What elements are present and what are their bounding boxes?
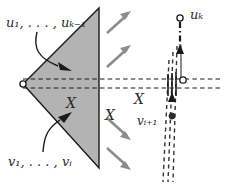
cone-diagram-figure: u₁, . . . , uₖ₋₁ v₁, . . . , vᵢ uₖ vᵢ₊₁ … (0, 0, 225, 184)
vi-plus-1-direction-arrow (168, 92, 176, 102)
flow-arrow-down-2 (107, 148, 131, 170)
apex-open-circle (20, 81, 26, 87)
flow-arrows-group (107, 11, 131, 170)
flow-arrow-up-1 (107, 11, 131, 33)
axis-intersection-open-circle (180, 77, 186, 83)
x-label-cone-edge: X (105, 108, 115, 122)
vi-plus-1-filled-circle (169, 113, 175, 119)
flow-arrow-up-2 (107, 45, 131, 67)
uk-endpoint-open-circle (177, 15, 183, 21)
vi-plus-1-label: vᵢ₊₁ (137, 115, 157, 127)
lower-generators-label: v₁, . . . , vᵢ (8, 155, 72, 168)
x-label-right-region: X (134, 92, 144, 106)
uk-label: uₖ (190, 8, 203, 21)
x-label-inside-cone: X (66, 96, 76, 110)
upper-generators-label: u₁, . . . , uₖ₋₁ (6, 16, 86, 29)
